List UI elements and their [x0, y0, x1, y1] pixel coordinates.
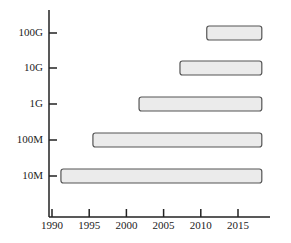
- y-tick-label: 10G: [3, 61, 43, 73]
- y-tick-label: 100M: [3, 133, 43, 145]
- y-ticks: [49, 33, 57, 176]
- range-bar-100m: [93, 133, 262, 147]
- range-bar-100g: [207, 26, 262, 40]
- x-tick-label: 2005: [149, 219, 179, 231]
- bars-group: [61, 26, 262, 183]
- x-tick-label: 1995: [74, 219, 104, 231]
- x-ticks: [52, 209, 238, 217]
- range-bar-1g: [139, 97, 262, 111]
- chart-plot-area: [0, 0, 291, 243]
- y-tick-label: 100G: [3, 26, 43, 38]
- x-tick-label: 2010: [186, 219, 216, 231]
- range-bar-10m: [61, 169, 262, 183]
- y-tick-label: 1G: [3, 97, 43, 109]
- range-bar-10g: [180, 61, 262, 75]
- x-tick-label: 2000: [111, 219, 141, 231]
- y-tick-label: 10M: [3, 169, 43, 181]
- x-tick-label: 2015: [223, 219, 253, 231]
- timeline-chart: 10M100M1G10G100G 19901995200020052010201…: [0, 0, 291, 243]
- x-tick-label: 1990: [37, 219, 67, 231]
